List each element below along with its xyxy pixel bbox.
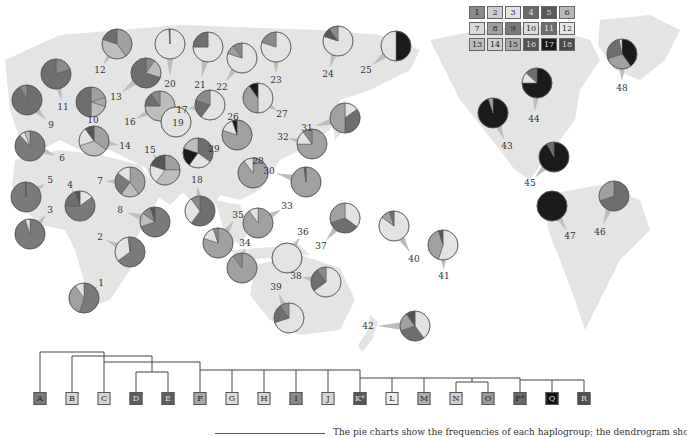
pie-chart-47 — [537, 191, 567, 221]
pie-chart-13 — [131, 58, 161, 88]
population-label-27: 27 — [276, 110, 287, 119]
pie-chart-7 — [115, 167, 145, 197]
population-label-35: 35 — [232, 211, 243, 220]
pie-chart-11 — [41, 59, 71, 89]
population-label-44: 44 — [528, 115, 539, 124]
population-label-23: 23 — [270, 76, 281, 85]
dendrogram-leaf-i: I — [290, 392, 303, 405]
dendrogram-leaf-a: A — [34, 392, 47, 405]
population-label-22: 22 — [216, 83, 227, 92]
pie-chart-18 — [185, 196, 215, 226]
population-label-4: 4 — [67, 181, 73, 190]
dendrogram-leaf-m: M — [418, 392, 431, 405]
legend-item-16: 16 — [523, 38, 539, 51]
dendrogram-leaf-o: O — [482, 392, 495, 405]
population-label-38: 38 — [290, 272, 301, 281]
population-label-13: 13 — [110, 93, 121, 102]
population-label-41: 41 — [438, 272, 449, 281]
dendrogram-leaf-q: Q — [546, 392, 559, 405]
population-label-6: 6 — [59, 154, 65, 163]
population-label-12: 12 — [94, 66, 105, 75]
pie-chart-48 — [607, 39, 637, 69]
legend-item-11: 11 — [541, 22, 557, 35]
dendrogram-lines — [40, 352, 584, 392]
pie-chart-5 — [11, 182, 41, 212]
pie-chart-25 — [381, 31, 411, 61]
pie-chart-32 — [297, 129, 327, 159]
pie-chart-41 — [428, 230, 458, 260]
legend-item-3: 3 — [505, 6, 521, 19]
pie-chart-1 — [69, 283, 99, 313]
pie-chart-33 — [243, 208, 273, 238]
population-label-48: 48 — [616, 84, 627, 93]
population-label-19: 19 — [172, 119, 183, 128]
legend-item-6: 6 — [559, 6, 575, 19]
dendrogram-leaf-p-star: P* — [514, 392, 527, 405]
population-label-14: 14 — [119, 142, 130, 151]
legend-item-9: 9 — [505, 22, 521, 35]
population-label-46: 46 — [594, 228, 605, 237]
population-label-2: 2 — [97, 233, 103, 242]
pie-chart-44 — [522, 68, 552, 98]
population-label-1: 1 — [98, 279, 104, 288]
population-label-16: 16 — [124, 118, 135, 127]
population-label-8: 8 — [117, 206, 123, 215]
legend-item-15: 15 — [505, 38, 521, 51]
legend-item-17: 17 — [541, 38, 557, 51]
population-label-21: 21 — [194, 81, 205, 90]
pie-chart-37 — [330, 203, 360, 233]
dendrogram-leaf-l: L — [386, 392, 399, 405]
population-label-47: 47 — [564, 232, 575, 241]
pie-chart-30 — [291, 167, 321, 197]
population-label-10: 10 — [87, 116, 98, 125]
pie-chart-43 — [478, 98, 508, 128]
population-label-31: 31 — [301, 124, 312, 133]
dendrogram-leaf-b: B — [66, 392, 79, 405]
pie-chart-27 — [243, 83, 273, 113]
pie-chart-24 — [323, 26, 353, 56]
pie-chart-38 — [311, 267, 341, 297]
haplogroup-legend: 123456789101112131415161718 — [469, 6, 575, 51]
pie-chart-6 — [15, 131, 45, 161]
pie-chart-42 — [400, 311, 430, 341]
pie-chart-12 — [102, 29, 132, 59]
legend-item-8: 8 — [487, 22, 503, 35]
pie-chart-15 — [150, 155, 180, 185]
population-label-24: 24 — [322, 70, 333, 79]
population-label-28: 28 — [252, 157, 263, 166]
population-label-18: 18 — [191, 176, 202, 185]
population-label-26: 26 — [227, 113, 238, 122]
population-label-30: 30 — [263, 167, 274, 176]
legend-item-12: 12 — [559, 22, 575, 35]
pie-chart-26 — [222, 120, 252, 150]
dendrogram-leaf-h: H — [258, 392, 271, 405]
dendro-branch-DE — [136, 372, 168, 392]
pie-chart-23 — [261, 32, 291, 62]
pie-chart-46 — [599, 181, 629, 211]
dendro-branch-P-QR — [520, 378, 584, 392]
population-label-5: 5 — [47, 176, 53, 185]
legend-item-10: 10 — [523, 22, 539, 35]
pie-chart-20 — [155, 29, 185, 59]
population-label-39: 39 — [270, 283, 281, 292]
population-label-42: 42 — [362, 322, 373, 331]
population-label-37: 37 — [315, 242, 326, 251]
dendrogram-leaf-f: F — [194, 392, 207, 405]
legend-item-5: 5 — [541, 6, 557, 19]
population-label-29: 29 — [208, 145, 219, 154]
pie-chart-17 — [195, 90, 225, 120]
dendrogram-leaf-e: E — [162, 392, 175, 405]
pie-chart-2 — [115, 237, 145, 267]
population-label-40: 40 — [408, 255, 419, 264]
population-label-43: 43 — [501, 142, 512, 151]
landmass-group — [5, 15, 680, 352]
population-label-34: 34 — [239, 239, 250, 248]
dendro-branch-NO — [456, 378, 488, 392]
population-label-11: 11 — [57, 103, 68, 112]
dendrogram-leaf-j: J — [322, 392, 335, 405]
pie-chart-34 — [227, 253, 257, 283]
population-label-45: 45 — [524, 179, 535, 188]
legend-item-13: 13 — [469, 38, 485, 51]
dendrogram-leaf-g: G — [226, 392, 239, 405]
pie-chart-45 — [539, 142, 569, 172]
